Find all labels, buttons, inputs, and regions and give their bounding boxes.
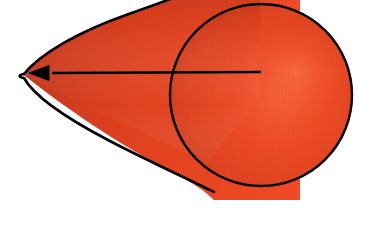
cone-apex bbox=[20, 74, 25, 78]
axis-arrow-shaft bbox=[52, 72, 261, 73]
cone-figure bbox=[0, 0, 378, 225]
figure-canvas: Red cone with leftward axis arrow A thre… bbox=[0, 0, 378, 225]
